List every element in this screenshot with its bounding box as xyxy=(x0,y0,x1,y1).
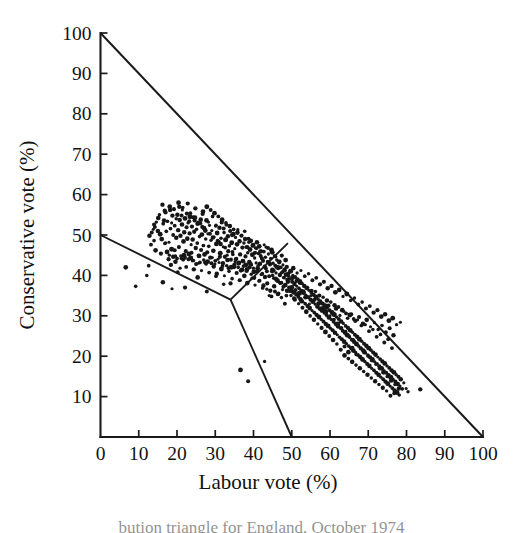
data-point xyxy=(170,213,174,217)
data-point xyxy=(283,302,287,306)
data-point xyxy=(328,314,331,317)
data-point xyxy=(303,274,307,278)
x-tick-label-30: 30 xyxy=(206,443,226,464)
data-point xyxy=(362,370,366,374)
data-point xyxy=(281,263,284,266)
data-point xyxy=(397,386,401,390)
data-point xyxy=(265,287,268,290)
data-point xyxy=(301,289,306,294)
data-point xyxy=(227,270,231,274)
data-point xyxy=(263,275,267,279)
data-point xyxy=(269,257,272,260)
data-point xyxy=(208,224,211,227)
data-point xyxy=(384,330,388,334)
data-point xyxy=(175,217,178,220)
data-point xyxy=(185,211,189,215)
data-point xyxy=(392,391,396,395)
data-point xyxy=(289,294,292,297)
data-point xyxy=(198,261,202,265)
data-point xyxy=(289,285,294,290)
data-point xyxy=(169,263,173,267)
data-point xyxy=(183,216,188,221)
data-point xyxy=(195,241,199,245)
x-tick-label-40: 40 xyxy=(244,443,264,464)
data-point xyxy=(294,288,298,292)
data-point xyxy=(222,283,226,287)
data-point xyxy=(232,227,236,231)
data-point xyxy=(162,218,167,223)
y-axis-title: Conservative vote (%) xyxy=(15,141,39,330)
data-point xyxy=(360,300,364,304)
data-point xyxy=(234,236,237,239)
data-point xyxy=(370,376,374,380)
data-point xyxy=(199,232,204,237)
data-point xyxy=(225,258,230,263)
data-point xyxy=(187,231,191,235)
data-point xyxy=(285,288,290,293)
data-point xyxy=(388,326,392,330)
data-point xyxy=(175,213,179,217)
data-point xyxy=(340,308,345,313)
x-tick-label-80: 80 xyxy=(397,443,417,464)
data-point xyxy=(181,208,184,211)
data-point xyxy=(270,269,274,273)
data-point xyxy=(338,314,341,317)
data-point xyxy=(184,265,188,269)
data-point xyxy=(222,231,226,235)
data-point xyxy=(267,252,270,255)
data-point xyxy=(274,277,278,281)
data-point xyxy=(242,241,246,245)
data-point xyxy=(388,394,392,398)
data-point xyxy=(191,259,194,262)
data-point xyxy=(243,237,248,242)
x-tick-label-100: 100 xyxy=(468,443,497,464)
data-point xyxy=(355,342,358,345)
data-point xyxy=(253,251,257,255)
data-point xyxy=(201,209,206,214)
x-tick-label-20: 20 xyxy=(167,443,187,464)
data-point xyxy=(169,227,173,231)
data-point xyxy=(317,293,321,297)
data-point xyxy=(149,243,153,247)
data-point xyxy=(293,298,297,302)
data-point xyxy=(176,228,180,232)
data-point xyxy=(235,271,239,275)
data-point xyxy=(346,350,351,355)
data-point xyxy=(377,383,380,386)
data-point xyxy=(335,342,339,346)
data-point xyxy=(177,218,182,223)
data-point xyxy=(271,274,275,278)
data-point xyxy=(344,291,349,296)
data-point xyxy=(263,243,266,246)
y-tick-label-30: 30 xyxy=(72,305,92,326)
data-point xyxy=(382,341,386,345)
data-point xyxy=(164,241,168,245)
data-point xyxy=(356,303,360,307)
data-point xyxy=(250,243,255,248)
data-point xyxy=(383,312,388,317)
data-point xyxy=(342,344,346,348)
data-point xyxy=(193,206,197,210)
data-point xyxy=(313,298,317,302)
data-point xyxy=(261,286,265,290)
data-point xyxy=(351,338,355,342)
data-point xyxy=(177,245,181,249)
data-point xyxy=(160,203,164,207)
data-point xyxy=(307,272,311,276)
data-point xyxy=(199,248,203,252)
data-point xyxy=(158,213,162,217)
data-point xyxy=(267,261,271,265)
data-point xyxy=(397,393,401,397)
data-point xyxy=(220,217,225,222)
data-point xyxy=(229,240,234,245)
data-point xyxy=(350,360,355,365)
data-point xyxy=(352,317,356,321)
data-point xyxy=(389,378,394,383)
data-point xyxy=(309,294,312,297)
data-point xyxy=(243,230,247,234)
data-point xyxy=(358,366,363,371)
data-point xyxy=(211,248,216,253)
x-tick-label-50: 50 xyxy=(282,443,302,464)
data-point xyxy=(214,223,218,227)
data-point xyxy=(264,255,268,259)
